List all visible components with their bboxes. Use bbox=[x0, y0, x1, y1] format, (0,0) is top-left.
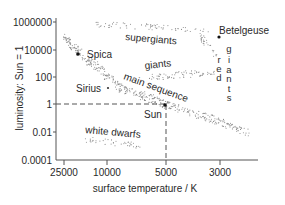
y-tick-label: 0.01 bbox=[33, 127, 53, 138]
y-tick-label: 1 bbox=[46, 99, 52, 110]
red-label: r e d bbox=[216, 54, 221, 83]
sirius-point bbox=[107, 87, 109, 89]
svg-text:s: s bbox=[227, 92, 232, 103]
giants-label: giants bbox=[144, 57, 172, 71]
sun-label: Sun bbox=[144, 109, 162, 120]
y-tick-label: 100 bbox=[35, 72, 52, 83]
hr-diagram: 1000000 10000 100 1 0.01 0.0001 25000 10… bbox=[0, 0, 285, 205]
sun-point bbox=[163, 103, 167, 107]
x-tick-label: 10000 bbox=[93, 167, 121, 178]
main-sequence-label: main sequence bbox=[122, 71, 190, 105]
x-axis-label: surface temperature / K bbox=[93, 183, 198, 194]
supergiants-label: supergiants bbox=[125, 31, 177, 46]
sirius-label: Sirius bbox=[76, 83, 101, 94]
y-tick-label: 0.0001 bbox=[21, 155, 52, 166]
svg-text:g: g bbox=[226, 43, 231, 54]
x-tick-label: 25000 bbox=[50, 167, 78, 178]
x-ticks bbox=[64, 160, 220, 165]
y-axis-label: luminosity: Sun = 1 bbox=[14, 45, 25, 130]
spica-point bbox=[76, 52, 80, 56]
red-giants-label: g i a n t s bbox=[226, 43, 232, 103]
x-tick-label: 3000 bbox=[209, 167, 232, 178]
y-tick-label: 10000 bbox=[24, 45, 52, 56]
svg-text:d: d bbox=[216, 72, 221, 83]
spica-label: Spica bbox=[87, 49, 112, 60]
x-tick-labels: 25000 10000 5000 3000 bbox=[50, 167, 231, 178]
x-tick-label: 5000 bbox=[155, 167, 178, 178]
y-tick-label: 1000000 bbox=[13, 17, 52, 28]
betelgeuse-label: Betelgeuse bbox=[219, 25, 269, 36]
